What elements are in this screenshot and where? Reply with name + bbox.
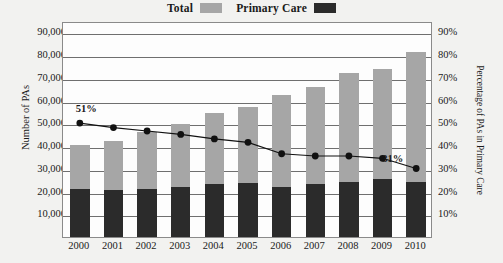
y-tick-right: 30% bbox=[438, 163, 488, 174]
legend-label-primary-care: Primary Care bbox=[236, 2, 307, 14]
line-marker bbox=[346, 153, 353, 160]
line-marker bbox=[312, 153, 319, 160]
data-label-31pct: 31% bbox=[382, 153, 403, 164]
y-tick-left: 60,000 bbox=[6, 95, 66, 106]
y-tick-right: 70% bbox=[438, 72, 488, 83]
y-tick-left: 90,000 bbox=[6, 26, 66, 37]
y-tick-left: 70,000 bbox=[6, 72, 66, 83]
y-tick-right: 80% bbox=[438, 49, 488, 60]
x-tick-2010: 2010 bbox=[392, 240, 438, 251]
y-tick-right: 40% bbox=[438, 140, 488, 151]
legend-item-total: Total bbox=[167, 2, 222, 14]
line-marker bbox=[76, 120, 83, 127]
legend-item-primary-care: Primary Care bbox=[236, 2, 336, 14]
chart-container: Total Primary Care Number of PAs Percent… bbox=[0, 0, 503, 263]
y-tick-left: 80,000 bbox=[6, 49, 66, 60]
y-tick-left: 40,000 bbox=[6, 140, 66, 151]
y-tick-left: 20,000 bbox=[6, 186, 66, 197]
legend-label-total: Total bbox=[167, 2, 193, 14]
y-tick-left: 10,000 bbox=[6, 208, 66, 219]
y-tick-left: 50,000 bbox=[6, 117, 66, 128]
percentage-line-series bbox=[63, 23, 431, 237]
primary-care-swatch-icon bbox=[314, 3, 336, 13]
y-tick-right: 20% bbox=[438, 186, 488, 197]
line-marker bbox=[211, 136, 218, 143]
plot-area: 51%31% bbox=[62, 22, 432, 238]
line-marker bbox=[144, 128, 151, 135]
line-marker bbox=[413, 165, 420, 172]
line-marker bbox=[278, 150, 285, 157]
data-label-51pct: 51% bbox=[76, 103, 97, 114]
y-tick-right: 50% bbox=[438, 117, 488, 128]
y-tick-right: 10% bbox=[438, 208, 488, 219]
chart-legend: Total Primary Care bbox=[0, 2, 503, 14]
y-tick-right: 90% bbox=[438, 26, 488, 37]
line-marker bbox=[245, 139, 252, 146]
y-tick-right: 60% bbox=[438, 95, 488, 106]
line-marker bbox=[177, 131, 184, 138]
y-tick-left: 30,000 bbox=[6, 163, 66, 174]
line-marker bbox=[110, 124, 117, 131]
total-swatch-icon bbox=[200, 3, 222, 13]
